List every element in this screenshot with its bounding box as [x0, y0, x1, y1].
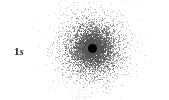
orbital-figure: 1s — [0, 0, 169, 100]
orbital-label: 1s — [14, 42, 24, 58]
nucleus-dot — [88, 44, 97, 53]
electron-density-cloud — [0, 0, 169, 100]
orbital-label-subshell: s — [20, 46, 24, 57]
